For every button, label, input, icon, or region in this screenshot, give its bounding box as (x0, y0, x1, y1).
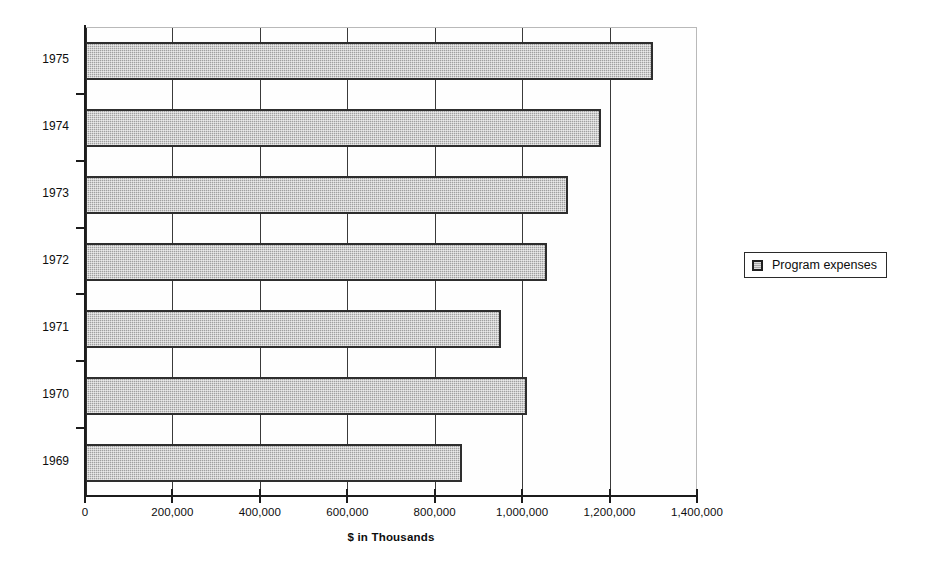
legend-swatch-program-expenses (752, 260, 763, 271)
bar-1970 (85, 377, 527, 415)
x-tick-1200000 (609, 489, 611, 503)
bar-1969 (85, 444, 462, 482)
x-axis-title: $ in Thousands (85, 531, 697, 543)
x-tick-label-800000: 800,000 (414, 506, 456, 518)
bar-1971 (85, 310, 501, 348)
y-tick-label-1970: 1970 (42, 387, 69, 401)
y-tick-label-1972: 1972 (42, 253, 69, 267)
x-tick-label-1200000: 1,200,000 (584, 506, 636, 518)
bar-1973 (85, 176, 568, 214)
x-tick-label-400000: 400,000 (239, 506, 281, 518)
x-tick-800000 (434, 489, 436, 503)
y-tick-label-1975: 1975 (42, 52, 69, 66)
x-tick-label-1000000: 1,000,000 (496, 506, 548, 518)
x-tick-600000 (346, 489, 348, 503)
y-tick-4 (76, 293, 85, 295)
x-axis-line (84, 495, 698, 497)
x-tick-label-200000: 200,000 (151, 506, 193, 518)
y-tick-label-1974: 1974 (42, 119, 69, 133)
x-tick-400000 (259, 489, 261, 503)
x-tick-200000 (171, 489, 173, 503)
chart-legend: Program expenses (744, 252, 887, 278)
y-tick-1 (76, 93, 85, 95)
y-tick-label-1973: 1973 (42, 186, 69, 200)
bar-1972 (85, 243, 547, 281)
x-tick-label-1400000: 1,400,000 (671, 506, 723, 518)
y-tick-6 (76, 427, 85, 429)
bar-1974 (85, 109, 601, 147)
plot-area (85, 27, 697, 495)
x-tick-0 (84, 489, 86, 503)
y-tick-label-1969: 1969 (42, 454, 69, 468)
y-tick-2 (76, 160, 85, 162)
x-tick-label-600000: 600,000 (326, 506, 368, 518)
legend-label-program-expenses: Program expenses (772, 258, 877, 272)
gridline-1200000 (610, 28, 611, 495)
y-tick-5 (76, 360, 85, 362)
x-tick-label-0: 0 (82, 506, 89, 518)
y-tick-label-1971: 1971 (42, 320, 69, 334)
bar-1975 (85, 42, 653, 80)
x-tick-1400000 (696, 489, 698, 503)
bar-chart-figure: 0200,000400,000600,000800,0001,000,0001,… (0, 0, 931, 565)
y-tick-3 (76, 227, 85, 229)
x-tick-1000000 (521, 489, 523, 503)
y-axis-tick-labels: 1975197419731972197119701969 (0, 0, 69, 565)
